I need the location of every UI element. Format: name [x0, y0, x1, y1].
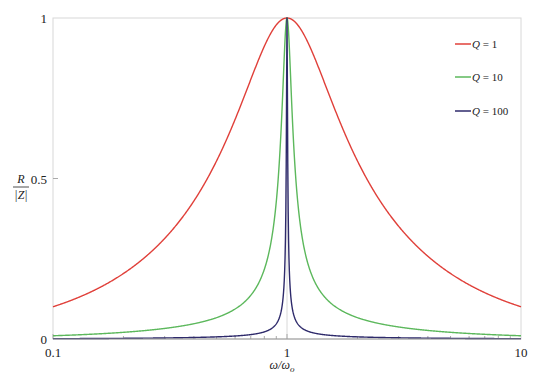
x-tick-label: 10	[515, 345, 528, 360]
legend-item-q1: Q = 1	[455, 38, 497, 50]
x-axis-title-subscript: o	[290, 364, 295, 374]
y-tick-label: 1	[41, 11, 48, 26]
legend-item-q10: Q = 10	[455, 71, 503, 83]
legend-q-symbol: Q	[472, 105, 480, 117]
y-axis-title-numerator: R	[16, 172, 25, 186]
svg-text:Q = 1: Q = 1	[472, 38, 497, 50]
svg-text:ω/ωo: ω/ωo	[270, 358, 295, 374]
x-axis-title-main: ω/ω	[270, 358, 290, 372]
y-axis-title-denominator: |Z|	[14, 188, 27, 202]
y-axis-tick-labels: 00.51	[31, 11, 47, 347]
x-axis-ticks	[53, 179, 510, 340]
legend-item-q100: Q = 100	[455, 105, 509, 117]
y-axis-title: R |Z|	[13, 172, 29, 202]
x-tick-label: 0.1	[45, 345, 61, 360]
svg-text:Q = 10: Q = 10	[472, 71, 503, 83]
legend-label-q1: = 1	[480, 38, 497, 50]
legend-q-symbol: Q	[472, 71, 480, 83]
legend-q-symbol: Q	[472, 38, 480, 50]
legend-label-q100: = 100	[480, 105, 509, 117]
legend: Q = 1 Q = 10 Q = 100	[455, 38, 509, 117]
resonance-chart: 00.51 0.1110 R |Z| ω/ωo Q = 1 Q = 10 Q =…	[0, 0, 542, 391]
x-axis-title: ω/ωo	[270, 358, 295, 374]
svg-text:Q = 100: Q = 100	[472, 105, 509, 117]
y-tick-label: 0.5	[31, 172, 47, 187]
legend-label-q10: = 10	[480, 71, 503, 83]
